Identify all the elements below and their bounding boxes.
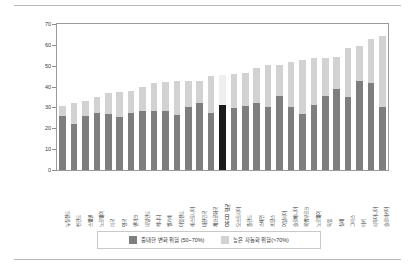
bar-segment-high-automation-risk bbox=[379, 36, 386, 107]
bar-segment-significant-change-risk bbox=[299, 114, 306, 170]
bar-country[interactable] bbox=[288, 24, 295, 170]
top-divider bbox=[14, 5, 401, 6]
x-axis-label: 아일랜드 bbox=[179, 211, 184, 227]
bar-country[interactable] bbox=[333, 24, 340, 170]
bar-country[interactable] bbox=[379, 24, 386, 170]
bar-segment-high-automation-risk bbox=[196, 81, 203, 103]
bar-country[interactable] bbox=[151, 24, 158, 170]
bar-segment-significant-change-risk bbox=[311, 105, 318, 170]
y-axis: 010203040506070 bbox=[16, 23, 56, 171]
bar-segment-high-automation-risk bbox=[71, 103, 78, 123]
x-axis-label: 핀란드 bbox=[76, 215, 81, 227]
bar-country[interactable] bbox=[185, 24, 192, 170]
x-axis-label: 미국 bbox=[110, 219, 115, 227]
y-axis-tick-label: 30 bbox=[45, 104, 51, 110]
bar-segment-high-automation-risk bbox=[322, 58, 329, 96]
x-axis-label: 리투아니아 bbox=[373, 207, 378, 227]
x-axis-label: 뉴질랜드 bbox=[65, 211, 70, 227]
bar-country[interactable] bbox=[345, 24, 352, 170]
bar-country[interactable] bbox=[139, 24, 146, 170]
x-axis-label: 노르웨이 bbox=[99, 211, 104, 227]
bar-segment-high-automation-risk bbox=[208, 76, 215, 112]
bar-segment-significant-change-risk bbox=[356, 81, 363, 170]
bar-segment-high-automation-risk bbox=[116, 92, 123, 117]
bar-segment-significant-change-risk bbox=[185, 107, 192, 170]
bar-segment-significant-change-risk bbox=[333, 89, 340, 170]
bar-country[interactable] bbox=[59, 24, 66, 170]
bar-segment-high-automation-risk bbox=[288, 62, 295, 107]
bar-country[interactable] bbox=[231, 24, 238, 170]
bar-country[interactable] bbox=[276, 24, 283, 170]
bar-segment-significant-change-risk bbox=[71, 124, 78, 171]
bar-country[interactable] bbox=[82, 24, 89, 170]
x-axis-label: 칠레 bbox=[339, 219, 344, 227]
bar-oecd-average[interactable] bbox=[219, 24, 226, 170]
bar-country[interactable] bbox=[162, 24, 169, 170]
bar-country[interactable] bbox=[368, 24, 375, 170]
bar-segment-high-automation-risk bbox=[311, 58, 318, 105]
bar-segment-significant-change-risk bbox=[128, 113, 135, 170]
bottom-divider bbox=[14, 259, 401, 260]
bar-segment-high-automation-risk bbox=[174, 81, 181, 114]
bar-country[interactable] bbox=[322, 24, 329, 170]
x-axis-label: 노르웨이 bbox=[316, 211, 321, 227]
bar-segment-high-automation-risk bbox=[105, 93, 112, 114]
x-axis-label: 벨기에 bbox=[167, 215, 172, 227]
bar-segment-significant-change-risk bbox=[253, 103, 260, 170]
y-axis-tick-label: 20 bbox=[45, 125, 51, 131]
bar-country[interactable] bbox=[299, 24, 306, 170]
bar-segment-significant-change-risk bbox=[265, 107, 272, 170]
x-axis-label: 영국 bbox=[122, 219, 127, 227]
bar-segment-high-automation-risk bbox=[368, 39, 375, 82]
bar-country[interactable] bbox=[128, 24, 135, 170]
chart-page: 010203040506070 뉴질랜드핀란드스웨덴노르웨이미국영국덴마크네덜란… bbox=[0, 0, 415, 268]
bar-segment-high-automation-risk bbox=[265, 65, 272, 107]
bar-country[interactable] bbox=[253, 24, 260, 170]
x-axis-label: 오스트리아 bbox=[236, 207, 241, 227]
bar-segment-significant-change-risk bbox=[379, 107, 386, 170]
x-axis-label: 네덜란드 bbox=[145, 211, 150, 227]
bar-country[interactable] bbox=[71, 24, 78, 170]
chart-frame: 010203040506070 뉴질랜드핀란드스웨덴노르웨이미국영국덴마크네덜란… bbox=[16, 13, 399, 250]
bar-country[interactable] bbox=[356, 24, 363, 170]
bar-segment-high-automation-risk bbox=[333, 57, 340, 88]
bar-country[interactable] bbox=[208, 24, 215, 170]
x-axis-label: 이탈리아 bbox=[282, 211, 287, 227]
bar-country[interactable] bbox=[265, 24, 272, 170]
bar-segment-significant-change-risk bbox=[208, 113, 215, 170]
y-axis-tick-label: 60 bbox=[45, 42, 51, 48]
bar-country[interactable] bbox=[116, 24, 123, 170]
x-axis-label: 체코공화국 bbox=[213, 207, 218, 227]
bar-segment-significant-change-risk bbox=[116, 117, 123, 170]
bar-country[interactable] bbox=[242, 24, 249, 170]
bar-country[interactable] bbox=[311, 24, 318, 170]
bar-segment-significant-change-risk bbox=[174, 115, 181, 170]
legend-label: 중대한 변화 위험 (50~70%) bbox=[141, 236, 204, 244]
bar-country[interactable] bbox=[94, 24, 101, 170]
x-axis-label: 그리스 bbox=[350, 215, 355, 227]
y-axis-tick-label: 10 bbox=[45, 146, 51, 152]
bar-segment-high-automation-risk bbox=[299, 60, 306, 114]
bar-segment-significant-change-risk bbox=[105, 114, 112, 170]
chart-legend: 중대한 변화 위험 (50~70%)높은 자동화 위험(>70%) bbox=[97, 231, 321, 249]
legend-swatch-icon bbox=[129, 236, 137, 244]
bar-segment-high-automation-risk bbox=[151, 83, 158, 111]
bar-segment-significant-change-risk bbox=[345, 97, 352, 170]
bar-country[interactable] bbox=[174, 24, 181, 170]
bar-country[interactable] bbox=[196, 24, 203, 170]
y-axis-tick-label: 40 bbox=[45, 84, 51, 90]
bar-segment-significant-change-risk bbox=[82, 116, 89, 170]
bar-segment-significant-change-risk bbox=[151, 111, 158, 170]
bar-segment-high-automation-risk bbox=[82, 101, 89, 115]
legend-item-high_automation[interactable]: 높은 자동화 위험(>70%) bbox=[221, 236, 289, 244]
bar-segment-high-automation-risk bbox=[345, 48, 352, 97]
bar-series-container bbox=[57, 24, 388, 170]
bar-segment-high-automation-risk bbox=[231, 74, 238, 109]
x-axis-label: 에스토니아 bbox=[190, 207, 195, 227]
bar-country[interactable] bbox=[105, 24, 112, 170]
bar-segment-high-automation-risk bbox=[139, 87, 146, 111]
x-axis-label: 독일 bbox=[327, 219, 332, 227]
legend-item-significant_change[interactable]: 중대한 변화 위험 (50~70%) bbox=[129, 236, 204, 244]
bar-segment-significant-change-risk bbox=[59, 116, 66, 170]
x-axis-label: 스페인 bbox=[259, 215, 264, 227]
